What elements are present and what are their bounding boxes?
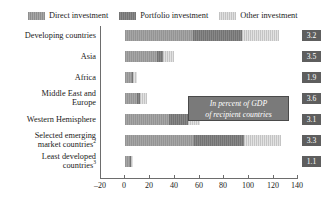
bar-segment-other bbox=[163, 51, 174, 62]
x-tick-label-7: 120 bbox=[267, 181, 279, 190]
x-tick-label-3: 40 bbox=[170, 181, 178, 190]
catlabel-text: Asia bbox=[81, 52, 96, 61]
bar-segment-portfolio bbox=[193, 30, 243, 41]
value-badge-asia: 3.5 bbox=[302, 51, 321, 62]
x-tick-4 bbox=[199, 175, 200, 179]
value-badge-africa: 1.9 bbox=[302, 72, 321, 83]
legend-swatch-other-icon bbox=[219, 12, 236, 20]
bar-segment-direct bbox=[125, 93, 137, 104]
value-badge-middle-east-and-europe: 3.6 bbox=[302, 93, 321, 104]
bar-segment-other bbox=[140, 93, 147, 104]
x-tick-5 bbox=[223, 175, 224, 179]
category-label-asia: Asia bbox=[0, 52, 96, 61]
x-tick-2 bbox=[149, 175, 150, 179]
value-badge-least-developed-countries: 1.1 bbox=[302, 156, 321, 167]
value-badge-developing-countries: 3.2 bbox=[302, 30, 321, 41]
x-tick-8 bbox=[297, 175, 298, 179]
legend-item-other-investment: Other investment bbox=[219, 11, 297, 20]
legend-item-direct-investment: Direct investment bbox=[28, 11, 108, 20]
catlabel-superscript: 3 bbox=[93, 159, 96, 165]
value-badge-selected-emerging-market-countries: 3.3 bbox=[302, 135, 321, 146]
category-label-developing-countries: Developing countries bbox=[0, 31, 96, 40]
y-axis-line bbox=[100, 26, 101, 179]
catlabel-text: Selected emerging bbox=[35, 131, 96, 140]
annotation-line-2: of recipient countries bbox=[205, 110, 271, 119]
catlabel-text2: countries bbox=[63, 161, 93, 170]
value-badge-western-hemisphere: 3.1 bbox=[302, 114, 321, 125]
legend-swatch-direct-icon bbox=[28, 12, 45, 20]
bar-segment-portfolio bbox=[169, 114, 188, 125]
x-tick-label-6: 100 bbox=[242, 181, 254, 190]
legend-label-portfolio: Portfolio investment bbox=[140, 11, 208, 20]
catlabel-text: Middle East and bbox=[42, 89, 96, 98]
bar-segment-direct bbox=[125, 72, 132, 83]
bar-segment-other bbox=[133, 72, 137, 83]
category-label-middle-east-and-europe: Middle East and Europe bbox=[0, 89, 96, 107]
bar-segment-other bbox=[242, 30, 279, 41]
catlabel-text: Africa bbox=[75, 73, 96, 82]
x-tick-7 bbox=[273, 175, 274, 179]
catlabel-text: Developing countries bbox=[25, 31, 96, 40]
catlabel-text: Least developed bbox=[42, 152, 96, 161]
x-tick-6 bbox=[248, 175, 249, 179]
bar-segment-other bbox=[244, 135, 281, 146]
category-label-western-hemisphere: Western Hemisphere bbox=[0, 115, 96, 124]
chart-legend: Direct investment Portfolio investment O… bbox=[28, 8, 300, 23]
bar-segment-direct bbox=[125, 51, 157, 62]
catlabel-text2: Europe bbox=[72, 98, 96, 107]
catlabel-text: Western Hemisphere bbox=[27, 115, 96, 124]
legend-item-portfolio-investment: Portfolio investment bbox=[119, 11, 208, 20]
figure-stacked-bar-chart: Direct investment Portfolio investment O… bbox=[0, 0, 326, 206]
x-tick-3 bbox=[174, 175, 175, 179]
bar-segment-portfolio bbox=[194, 135, 244, 146]
bar-segment-direct bbox=[125, 135, 194, 146]
category-label-selected-emerging-market-countries: Selected emerging market countries2 bbox=[0, 131, 96, 149]
bar-segment-direct bbox=[125, 30, 193, 41]
x-tick-1 bbox=[124, 175, 125, 179]
annotation-line-1: In percent of GDP bbox=[210, 99, 268, 108]
annotation-box: In percent of GDP of recipient countries bbox=[188, 96, 289, 121]
x-tick-label-4: 60 bbox=[195, 181, 203, 190]
legend-label-direct: Direct investment bbox=[49, 11, 108, 20]
catlabel-superscript: 2 bbox=[93, 138, 96, 144]
category-label-least-developed-countries: Least developed countries3 bbox=[0, 152, 96, 170]
catlabel-text2: market countries bbox=[38, 140, 94, 149]
x-tick-label-8: 140 bbox=[291, 181, 303, 190]
bar-segment-direct bbox=[125, 114, 170, 125]
x-tick-label-5: 80 bbox=[219, 181, 227, 190]
category-label-africa: Africa bbox=[0, 73, 96, 82]
legend-swatch-portfolio-icon bbox=[119, 12, 136, 20]
x-tick-0 bbox=[100, 175, 101, 179]
x-tick-label-0: –20 bbox=[94, 181, 106, 190]
x-tick-label-1: 0 bbox=[122, 181, 126, 190]
bar-segment-other bbox=[131, 156, 134, 167]
x-tick-label-2: 20 bbox=[145, 181, 153, 190]
legend-label-other: Other investment bbox=[240, 11, 297, 20]
